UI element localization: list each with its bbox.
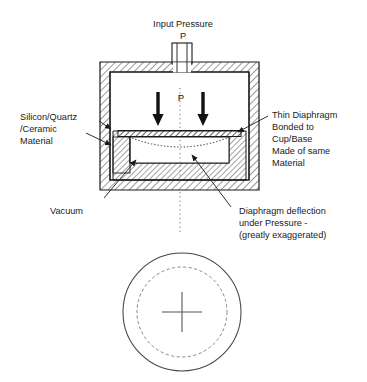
input-pressure-title: Input Pressure bbox=[153, 19, 213, 29]
inlet-nozzle bbox=[172, 43, 192, 64]
down-arrow-icon-left bbox=[152, 92, 163, 126]
vacuum-label: Vacuum bbox=[50, 206, 83, 216]
diaphragm-label-line3: Cup/Base bbox=[272, 134, 312, 144]
diaphragm-label-line1: Thin Diaphragm bbox=[272, 110, 338, 120]
deflection-label-line2: under Pressure - bbox=[239, 218, 307, 228]
deflection-label-line3: (greatly exaggerated) bbox=[239, 230, 326, 240]
thin-diaphragm bbox=[118, 131, 241, 137]
material-label-line3: Material bbox=[20, 136, 53, 146]
diaphragm-label-line2: Bonded to bbox=[272, 122, 314, 132]
plan-view-diaphragm bbox=[123, 253, 241, 371]
diaphragm-label-line5: Material bbox=[272, 158, 305, 168]
down-arrow-icon-right bbox=[197, 92, 208, 126]
deflection-label-line1: Diaphragm deflection bbox=[239, 206, 326, 216]
material-label-line2: /Ceramic bbox=[20, 124, 57, 134]
diaphragm-label-line4: Made of same bbox=[272, 146, 330, 156]
material-label-line1: Silicon/Quartz bbox=[20, 112, 78, 122]
inner-pressure-symbol: P bbox=[178, 92, 184, 103]
diagram-canvas: Input Pressure P P Silicon/Quartz /Ceram… bbox=[0, 0, 367, 382]
pressure-sensor-diagram: Input Pressure P P Silicon/Quartz /Ceram… bbox=[0, 0, 367, 382]
input-pressure-symbol: P bbox=[180, 31, 186, 41]
